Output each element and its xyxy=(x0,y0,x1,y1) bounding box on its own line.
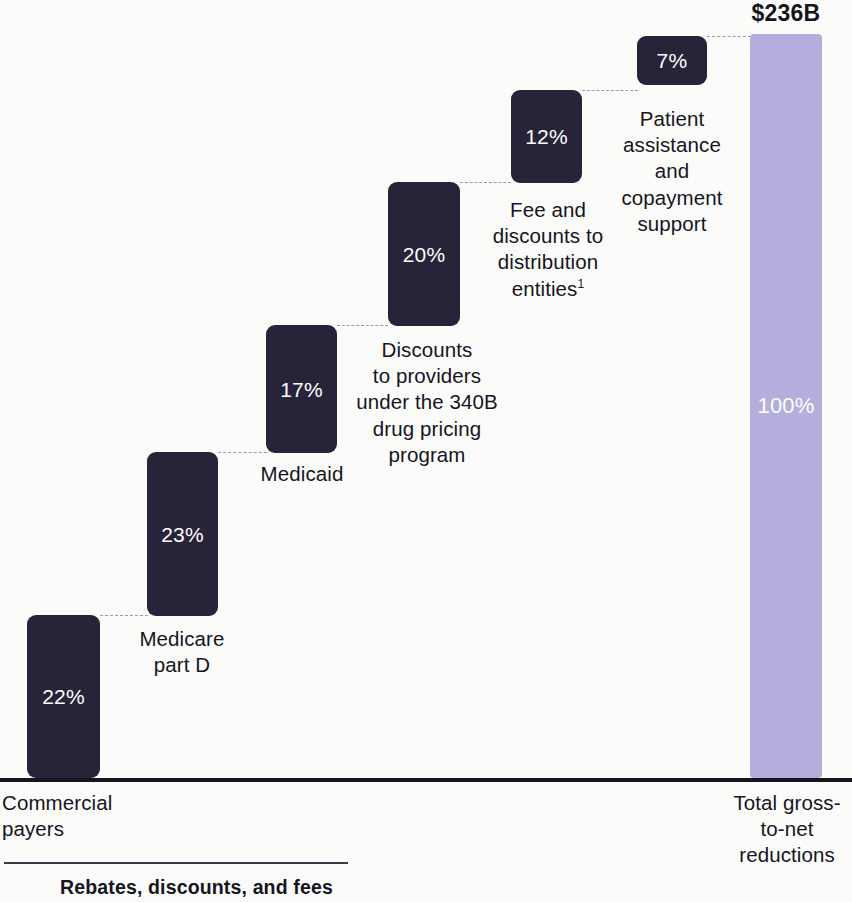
category-line: Total gross- xyxy=(722,790,852,816)
category-line: program xyxy=(352,442,502,468)
category-label-total-gross-to-net: Total gross- to-net reductions xyxy=(722,790,852,869)
bar-value-medicare-part-d: 23% xyxy=(161,524,204,545)
footer-text: Rebates, discounts, and fees xyxy=(60,876,333,899)
category-line: payers xyxy=(2,816,152,842)
bar-value-total-gross-to-net: 100% xyxy=(757,395,814,417)
connector-distribution-to-patient xyxy=(582,90,638,91)
category-line: Medicare xyxy=(116,626,248,652)
category-line: Patient xyxy=(597,106,747,132)
connector-commercial-to-medicare xyxy=(100,615,148,616)
category-label-patient-assistance: Patient assistance and copayment support xyxy=(597,106,747,237)
category-line: to providers xyxy=(352,363,502,389)
category-label-medicare-part-d: Medicare part D xyxy=(116,626,248,678)
bar-value-distribution-fees: 12% xyxy=(525,126,568,147)
category-line: entities xyxy=(512,277,578,300)
waterfall-chart: $236B 22% 23% 17% 20% 12% 7% 100% Patien… xyxy=(0,0,852,902)
bar-distribution-fees[interactable]: 12% xyxy=(511,90,582,183)
category-line: under the 340B xyxy=(352,389,502,415)
bar-medicaid[interactable]: 17% xyxy=(266,325,337,453)
category-line-with-footnote: entities1 xyxy=(478,276,618,302)
bar-value-medicaid: 17% xyxy=(280,379,323,400)
total-value-label: $236B xyxy=(700,0,852,27)
category-label-commercial-payers: Commercial payers xyxy=(2,790,152,842)
footnote-marker: 1 xyxy=(577,277,584,291)
bar-value-patient-assistance: 7% xyxy=(657,50,688,71)
category-line: assistance xyxy=(597,132,747,158)
connector-medicaid-to-340b xyxy=(337,325,388,326)
category-line: copayment xyxy=(597,185,747,211)
bar-value-commercial-payers: 22% xyxy=(42,686,85,707)
category-label-discounts-340b: Discounts to providers under the 340B dr… xyxy=(352,337,502,468)
category-line: and xyxy=(597,158,747,184)
bar-discounts-340b[interactable]: 20% xyxy=(388,182,460,326)
category-line: reductions xyxy=(722,842,852,868)
bar-medicare-part-d[interactable]: 23% xyxy=(147,452,218,616)
category-line: distribution xyxy=(478,249,618,275)
bar-patient-assistance[interactable]: 7% xyxy=(637,36,707,85)
category-line: Commercial xyxy=(2,790,152,816)
category-line: part D xyxy=(116,652,248,678)
baseline-axis xyxy=(0,778,852,782)
category-line: discounts to xyxy=(478,223,618,249)
connector-340b-to-distribution xyxy=(460,182,511,183)
category-line: Medicaid xyxy=(236,461,368,487)
category-label-medicaid: Medicaid xyxy=(236,461,368,487)
bar-total-gross-to-net[interactable]: 100% xyxy=(750,34,822,778)
bar-commercial-payers[interactable]: 22% xyxy=(27,615,100,778)
connector-patient-to-total xyxy=(707,36,751,37)
footnote-rule xyxy=(4,862,348,864)
category-line: drug pricing xyxy=(352,416,502,442)
connector-medicare-to-medicaid xyxy=(218,452,267,453)
category-line: to-net xyxy=(722,816,852,842)
category-line: Discounts xyxy=(352,337,502,363)
category-label-distribution-fees: Fee and discounts to distribution entiti… xyxy=(478,197,618,302)
category-line: support xyxy=(597,211,747,237)
bar-value-discounts-340b: 20% xyxy=(403,244,446,265)
category-line: Fee and xyxy=(478,197,618,223)
